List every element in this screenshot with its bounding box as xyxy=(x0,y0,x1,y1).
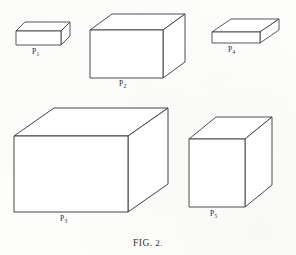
solid-p1 xyxy=(16,22,70,45)
solid-label-p3-subscript: 3 xyxy=(64,218,67,224)
solid-p2 xyxy=(90,14,185,78)
solid-label-p2-subscript: 2 xyxy=(123,83,126,89)
p1-front-face xyxy=(16,31,61,45)
solid-label-p4-subscript: 4 xyxy=(232,49,235,55)
solid-p4 xyxy=(212,19,279,43)
p4-front-face xyxy=(212,32,260,43)
figure-caption-number: 2. xyxy=(155,238,163,248)
p3-front-face xyxy=(14,136,128,212)
figure-page: P1 P2 P4 P3 P5 FIG. 2. xyxy=(0,0,296,255)
solid-p5 xyxy=(189,117,272,207)
solid-label-p1: P1 xyxy=(32,48,39,56)
p5-front-face xyxy=(189,139,245,207)
solid-label-p3: P3 xyxy=(60,215,67,223)
solid-label-p1-subscript: 1 xyxy=(36,51,39,57)
solid-label-p5: P5 xyxy=(210,210,217,218)
solid-label-p2: P2 xyxy=(119,80,126,88)
figure-drawing-canvas xyxy=(0,0,296,255)
solid-p3 xyxy=(14,108,168,212)
figure-caption-prefix: FIG. xyxy=(133,238,152,248)
solid-label-p5-subscript: 5 xyxy=(214,213,217,219)
p2-front-face xyxy=(90,30,163,78)
figure-caption: FIG. 2. xyxy=(0,238,296,248)
solid-label-p4: P4 xyxy=(228,46,235,54)
